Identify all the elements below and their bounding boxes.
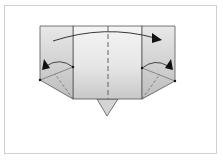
paper-body: [73, 26, 142, 99]
right-outer-dot: [174, 80, 176, 82]
left-outer-dot: [39, 79, 41, 81]
bottom-point-flap: [97, 99, 118, 116]
origami-diagram: [0, 0, 223, 160]
